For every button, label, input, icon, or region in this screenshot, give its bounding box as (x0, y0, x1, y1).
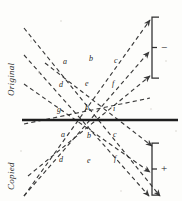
ray-label-copied-e-13: e (87, 157, 91, 165)
ray-dr-2 (24, 55, 149, 196)
paper-speck-5 (120, 190, 122, 192)
ray-label-original-a-0: a (63, 58, 67, 66)
region-label-original: Original (6, 63, 16, 96)
paper-speck-7 (175, 130, 177, 132)
paper-speck-3 (165, 60, 167, 62)
ray-diagram-figure: Original Copied abcdefghiabcdef −+ (0, 0, 182, 201)
ray-label-copied-f-14: f (114, 155, 116, 163)
bracket-top-sign: − (161, 42, 167, 53)
region-label-copied: Copied (6, 162, 16, 190)
ray-label-copied-c-11: c (113, 131, 117, 139)
ray-label-original-b-1: b (89, 55, 93, 63)
ray-label-original-e-4: e (85, 80, 89, 88)
ray-ur-2 (24, 52, 149, 196)
ray-label-original-g-6: g (57, 106, 61, 114)
paper-speck-6 (60, 20, 62, 22)
paper-speck-1 (150, 108, 152, 110)
bracket-group (152, 17, 159, 195)
paper-speck-4 (30, 40, 32, 42)
ray-label-copied-a-9: a (61, 131, 65, 139)
ray-label-original-f-5: f (112, 80, 114, 88)
ray-label-original-i-8: i (113, 105, 115, 113)
paper-speck-0 (38, 72, 40, 74)
diagram-canvas (0, 0, 182, 201)
ray-label-original-d-3: d (59, 81, 63, 89)
paper-speck-2 (20, 150, 22, 152)
ray-label-original-c-2: c (114, 57, 118, 65)
ray-label-copied-d-12: d (59, 156, 63, 164)
ray-label-copied-b-10: b (87, 132, 91, 140)
ray-label-original-h-7: h (85, 104, 89, 112)
bracket-bottom-sign: + (161, 163, 167, 174)
